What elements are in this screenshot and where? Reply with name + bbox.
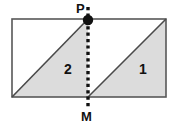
region-1-label: 1 [139, 62, 147, 76]
geometry-figure: P M 2 1 [0, 0, 172, 124]
point-m-label: M [81, 110, 92, 123]
region-2-label: 2 [64, 62, 72, 76]
point-p-label: P [76, 2, 85, 15]
point-p-dot [83, 15, 93, 25]
